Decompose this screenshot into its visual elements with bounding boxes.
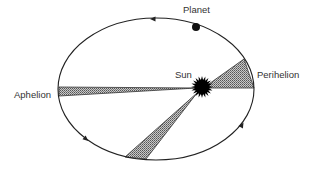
- perihelion-label: Perihelion: [257, 70, 299, 80]
- planet-icon: [192, 23, 200, 31]
- aphelion-wedge: [59, 87, 196, 96]
- orbit-diagram-canvas: [0, 0, 313, 170]
- arrow-left-icon: [150, 17, 156, 22]
- swept-area-wedges: [59, 59, 254, 159]
- planet-label: Planet: [183, 5, 210, 15]
- lower-wedge: [125, 93, 197, 159]
- sun-icon: [191, 76, 213, 98]
- aphelion-label: Aphelion: [14, 90, 51, 100]
- sun-label: Sun: [175, 70, 192, 80]
- kepler-orbit-diagram: Planet Sun Perihelion Aphelion: [0, 0, 313, 170]
